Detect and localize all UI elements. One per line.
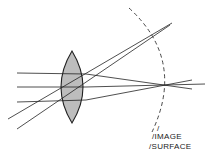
lens-diagram [0,0,215,158]
oblique-ray-2 [17,25,170,129]
image-label: /IMAGE [152,133,182,141]
oblique-ray-1 [8,23,172,119]
image-surface-arc [129,8,165,132]
surface-label: /SURFACE [149,143,191,151]
